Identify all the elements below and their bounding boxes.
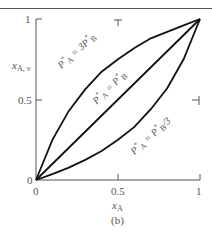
x-tick-label-0: 0: [33, 186, 39, 197]
curve-diagonal: [36, 19, 200, 180]
x-axis-label-sub: A: [117, 204, 123, 213]
figure-caption: (b): [111, 215, 124, 226]
x-tick-label-0.5: 0.5: [111, 186, 125, 197]
y-axis-label: xA, v: [12, 60, 31, 73]
x-axis-label: xA: [112, 200, 123, 213]
y-tick-label-0.5: 0.5: [18, 95, 32, 106]
y-tick-label-1: 1: [25, 14, 31, 25]
y-axis-label-sub: A, v: [17, 64, 31, 73]
plot-area: [0, 0, 212, 235]
y-tick-label-0: 0: [27, 175, 33, 186]
x-tick-label-1: 1: [196, 186, 202, 197]
